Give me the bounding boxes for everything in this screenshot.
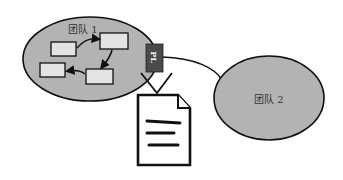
team1-label: 团队 1: [68, 21, 98, 36]
document-icon: [138, 95, 190, 165]
pl-label: PL: [149, 51, 159, 63]
team2-label: 团队 2: [254, 91, 284, 106]
task-box: [51, 42, 76, 56]
diagram-canvas: [0, 0, 343, 180]
task-box: [86, 69, 113, 84]
connector-line: [162, 57, 222, 80]
task-box: [100, 33, 128, 49]
task-box: [40, 63, 65, 77]
